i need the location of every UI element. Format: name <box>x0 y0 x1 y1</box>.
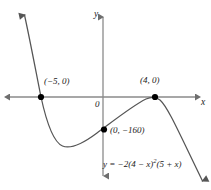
origin-label: 0 <box>95 100 100 109</box>
equation-label: y = −2(4 − x)2(5 + x) <box>103 158 182 169</box>
equation-suffix: (5 + x) <box>156 159 181 169</box>
point-root-left <box>38 94 44 100</box>
point-y-intercept <box>101 126 107 132</box>
point-root-right <box>152 94 158 100</box>
x-axis-label: x <box>201 98 205 108</box>
y-axis-label: y <box>94 10 98 20</box>
label-root-left: (−5, 0) <box>44 77 70 86</box>
equation-prefix: y = −2(4 − x) <box>103 159 153 169</box>
label-y-intercept: (0, −160) <box>110 126 145 135</box>
label-root-right: (4, 0) <box>140 76 160 85</box>
polynomial-curve <box>25 15 203 181</box>
